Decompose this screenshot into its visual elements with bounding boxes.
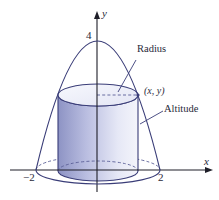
- x-tick-2: 2: [158, 171, 164, 183]
- paraboloid-cylinder-figure: y x 4 −2 2 Radius (x, y) Altitude: [0, 0, 219, 200]
- altitude-pointer: [140, 111, 163, 124]
- point-marker: [136, 93, 139, 96]
- altitude-label: Altitude: [164, 103, 199, 114]
- x-tick-neg2: −2: [23, 171, 35, 183]
- y-axis-arrow: [94, 11, 100, 19]
- point-label: (x, y): [144, 85, 165, 97]
- cylinder-body: [58, 95, 138, 181]
- y-tick-4: 4: [86, 29, 92, 41]
- x-axis-arrow: [205, 167, 213, 173]
- x-axis-label: x: [203, 155, 209, 167]
- radius-label: Radius: [137, 43, 166, 54]
- y-axis-label: y: [101, 7, 107, 19]
